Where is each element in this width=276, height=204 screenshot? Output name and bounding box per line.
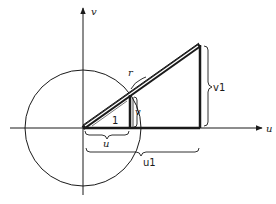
u-axis-label: u [266,123,272,134]
label-v-small: v [135,106,141,117]
label-u1: u1 [143,157,156,168]
brace-u1 [86,148,199,156]
unit-circle-similar-triangles-diagram: v u r 1 v u v1 u1 [0,0,276,204]
large-triangle [83,43,200,128]
label-u-small: u [103,138,109,149]
brace-v1 [204,46,212,126]
label-r: r [128,67,134,78]
label-v1: v1 [213,82,225,93]
v-axis-label: v [91,6,97,17]
label-1: 1 [112,115,118,126]
